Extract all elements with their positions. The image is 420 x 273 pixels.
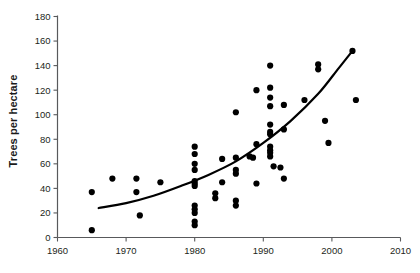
y-tick-label: 180 bbox=[35, 11, 51, 22]
x-tick-label: 1990 bbox=[253, 245, 274, 256]
data-point bbox=[315, 66, 321, 72]
data-point bbox=[192, 144, 198, 150]
data-point bbox=[281, 175, 287, 181]
data-point bbox=[109, 175, 115, 181]
x-axis-ticks: 196019701980199020002010 bbox=[47, 238, 411, 256]
data-point bbox=[219, 179, 225, 185]
data-point bbox=[192, 161, 198, 167]
chart-canvas: 020406080100120140160180 196019701980199… bbox=[0, 0, 420, 273]
data-point bbox=[89, 189, 95, 195]
data-point bbox=[267, 94, 273, 100]
data-point bbox=[133, 189, 139, 195]
y-axis-ticks: 020406080100120140160180 bbox=[35, 11, 58, 243]
y-tick-label: 140 bbox=[35, 60, 51, 71]
data-point bbox=[192, 183, 198, 189]
data-point bbox=[250, 155, 256, 161]
data-point bbox=[219, 156, 225, 162]
data-point bbox=[281, 102, 287, 108]
data-point bbox=[325, 140, 331, 146]
data-point bbox=[192, 222, 198, 228]
data-point bbox=[267, 103, 273, 109]
x-tick-label: 1980 bbox=[184, 245, 205, 256]
y-tick-label: 100 bbox=[35, 109, 51, 120]
y-tick-label: 40 bbox=[40, 183, 51, 194]
data-point bbox=[267, 153, 273, 159]
data-point bbox=[233, 171, 239, 177]
data-point bbox=[212, 195, 218, 201]
data-point bbox=[353, 97, 359, 103]
data-point bbox=[253, 87, 259, 93]
data-point bbox=[270, 163, 276, 169]
y-tick-label: 60 bbox=[40, 158, 51, 169]
data-point bbox=[157, 179, 163, 185]
data-point bbox=[192, 210, 198, 216]
data-point bbox=[277, 164, 283, 170]
y-tick-label: 160 bbox=[35, 35, 51, 46]
data-point bbox=[267, 63, 273, 69]
data-point bbox=[267, 121, 273, 127]
data-point bbox=[233, 202, 239, 208]
data-point bbox=[89, 227, 95, 233]
x-tick-label: 2000 bbox=[321, 245, 342, 256]
y-tick-label: 80 bbox=[40, 134, 51, 145]
scatter-chart: 020406080100120140160180 196019701980199… bbox=[0, 0, 420, 273]
data-point bbox=[322, 118, 328, 124]
data-points bbox=[89, 48, 359, 233]
x-tick-label: 2010 bbox=[390, 245, 411, 256]
data-point bbox=[301, 97, 307, 103]
x-tick-label: 1960 bbox=[47, 245, 68, 256]
data-point bbox=[133, 175, 139, 181]
y-tick-label: 120 bbox=[35, 85, 51, 96]
trend-line bbox=[99, 51, 353, 208]
data-point bbox=[137, 212, 143, 218]
x-tick-label: 1970 bbox=[116, 245, 137, 256]
data-point bbox=[192, 151, 198, 157]
data-point bbox=[233, 109, 239, 115]
y-tick-label: 0 bbox=[45, 232, 50, 243]
data-point bbox=[192, 167, 198, 173]
data-point bbox=[267, 85, 273, 91]
data-point bbox=[253, 180, 259, 186]
y-tick-label: 20 bbox=[40, 207, 51, 218]
